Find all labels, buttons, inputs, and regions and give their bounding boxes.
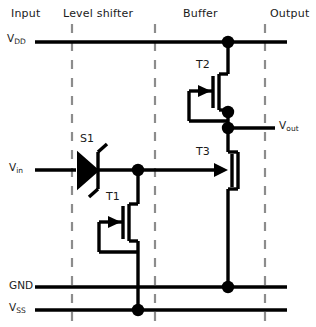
net-label-vss: VSS <box>9 302 26 313</box>
section-header-buffer: Buffer <box>183 8 218 20</box>
s1-zener-hook-bottom <box>89 189 98 197</box>
junction-dot-vin-t1-t3gate <box>132 164 144 176</box>
circuit-schematic-svg <box>0 0 316 327</box>
net-label-vss-subscript: SS <box>16 306 26 315</box>
net-label-gnd-text: GND <box>9 279 33 291</box>
section-header-output: Output <box>270 8 309 20</box>
net-label-vout-subscript: out <box>286 124 299 133</box>
net-label-vin-subscript: in <box>16 166 23 175</box>
net-label-gnd: GND <box>9 280 33 291</box>
s1-diode-triangle <box>78 153 98 188</box>
junction-dot-vss-t1-source <box>132 304 144 316</box>
section-divider-guides <box>72 24 265 322</box>
section-header-level-shifter: Level shifter <box>63 8 133 20</box>
s1-zener-hook-top <box>98 144 107 152</box>
t2-mosfet-symbol <box>189 42 228 128</box>
device-label-s1: S1 <box>80 133 94 145</box>
net-label-vin: Vin <box>9 162 23 173</box>
t3-gate-arrowhead <box>214 163 228 177</box>
net-label-vdd-subscript: DD <box>14 37 26 46</box>
junction-dot-vout-node <box>222 122 234 134</box>
schematic-canvas: Input Level shifter Buffer Output VDD Vi… <box>0 0 316 327</box>
t3-mosfet-symbol <box>228 128 238 287</box>
device-label-t3: T3 <box>196 146 210 158</box>
net-label-vout: Vout <box>279 120 299 131</box>
junction-dot-t2-source <box>222 106 234 118</box>
section-header-input: Input <box>11 8 40 20</box>
junction-dot-vdd-t2-drain <box>222 36 234 48</box>
device-label-t2: T2 <box>196 59 210 71</box>
junction-dot-gnd-t3-source <box>222 281 234 293</box>
device-label-t1: T1 <box>106 191 120 203</box>
t1-gate-arrowhead <box>108 216 121 228</box>
net-label-vdd: VDD <box>7 33 26 44</box>
t2-gate-arrowhead <box>198 85 211 97</box>
